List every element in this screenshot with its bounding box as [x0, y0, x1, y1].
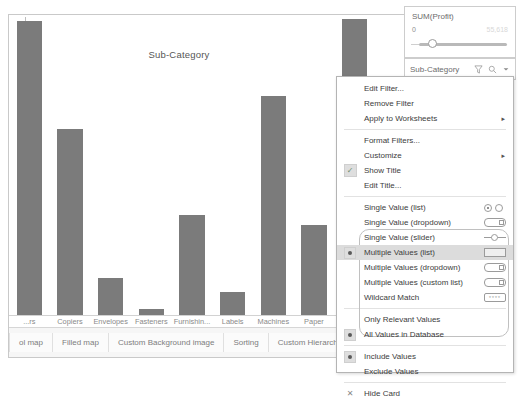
menu-item[interactable]: Only Relevant Values [337, 312, 513, 327]
radio-selected-icon [344, 247, 356, 259]
menu-separator [344, 129, 506, 130]
bar-rect[interactable] [179, 215, 204, 315]
x-tick-label[interactable]: Envelopes [90, 317, 131, 326]
menu-item-label: Include Values [364, 352, 416, 361]
menu-item[interactable]: Customize▸ [337, 148, 513, 163]
plot-bars [9, 19, 375, 315]
checkmark-icon: ✓ [344, 164, 357, 177]
menu-item-label: Multiple Values (dropdown) [364, 263, 460, 272]
menu-gutter-empty [341, 81, 359, 96]
bar[interactable] [261, 19, 286, 315]
menu-item-label: Multiple Values (custom list) [364, 278, 463, 287]
profit-min-label: 0 [412, 26, 416, 33]
x-tick-label[interactable]: Copiers [50, 317, 91, 326]
menu-item-label: Single Value (list) [364, 203, 426, 212]
menu-item[interactable]: ✓Show Title [337, 163, 513, 178]
menu-separator [344, 345, 506, 346]
menu-item[interactable]: ✕Hide Card [337, 386, 513, 400]
list-icon [484, 245, 506, 260]
dropdown-check-icon [484, 275, 506, 290]
menu-item[interactable]: Exclude Values [337, 364, 513, 379]
search-icon[interactable] [488, 65, 497, 74]
profit-max-label: 55,618 [487, 26, 508, 33]
worksheet-tab[interactable]: Custom Background image [109, 333, 225, 352]
menu-item-label: Hide Card [364, 389, 400, 398]
menu-gutter-empty [341, 111, 359, 126]
bar-rect[interactable] [301, 225, 326, 315]
submenu-arrow-icon: ▸ [501, 148, 505, 163]
menu-gutter [341, 245, 359, 260]
bar-rect[interactable] [98, 278, 123, 315]
menu-gutter-empty [341, 260, 359, 275]
profit-range-slider[interactable] [419, 43, 507, 46]
menu-item[interactable]: Edit Filter... [337, 81, 513, 96]
menu-item-label: Apply to Worksheets [364, 114, 437, 123]
worksheet-tab[interactable]: ol map [9, 333, 53, 352]
bar-rect[interactable] [17, 21, 42, 315]
menu-item[interactable]: Remove Filter [337, 96, 513, 111]
bar[interactable] [139, 19, 164, 315]
slider-icon [484, 230, 506, 245]
bar-rect[interactable] [57, 129, 82, 315]
filter-icon[interactable] [474, 65, 483, 74]
menu-item[interactable]: Single Value (list) [337, 200, 513, 215]
menu-item-label: Wildcard Match [364, 293, 419, 302]
menu-item[interactable]: Include Values [337, 349, 513, 364]
bar[interactable] [57, 19, 82, 315]
bar-rect[interactable] [261, 96, 286, 315]
x-tick-label[interactable]: Fasteners [131, 317, 172, 326]
menu-item-label: Edit Title... [364, 181, 401, 190]
menu-item-label: Only Relevant Values [364, 315, 440, 324]
bar[interactable] [301, 19, 326, 315]
x-tick-label[interactable]: Furnishin... [172, 317, 213, 326]
menu-item[interactable]: All Values in Database [337, 327, 513, 342]
menu-gutter [341, 327, 359, 342]
menu-item[interactable]: Multiple Values (custom list) [337, 275, 513, 290]
menu-item[interactable]: Wildcard Match**** [337, 290, 513, 305]
menu-item[interactable]: Format Filters... [337, 133, 513, 148]
menu-gutter-empty [341, 133, 359, 148]
menu-gutter-empty [341, 215, 359, 230]
worksheet-tab[interactable]: Sorting [224, 333, 268, 352]
menu-item[interactable]: Multiple Values (dropdown) [337, 260, 513, 275]
slider-handle[interactable] [428, 39, 437, 48]
subcategory-card-title: Sub-Category [410, 65, 469, 74]
bar[interactable] [98, 19, 123, 315]
x-tick-label[interactable]: Machines [253, 317, 294, 326]
wildcard-icon: **** [484, 290, 506, 305]
menu-gutter-empty [341, 290, 359, 305]
bar-rect[interactable] [220, 292, 245, 315]
filter-context-menu[interactable]: Edit Filter...Remove FilterApply to Work… [336, 76, 514, 373]
x-axis-line [9, 315, 375, 316]
radio-selected-icon [344, 329, 356, 341]
menu-item[interactable]: Apply to Worksheets▸ [337, 111, 513, 126]
bar[interactable] [179, 19, 204, 315]
radio-selected-icon [344, 351, 356, 363]
x-tick-label[interactable]: Labels [212, 317, 253, 326]
x-tick-label[interactable]: Paper [294, 317, 335, 326]
menu-item[interactable]: Single Value (slider) [337, 230, 513, 245]
menu-gutter-empty [341, 96, 359, 111]
menu-item-label: Format Filters... [364, 136, 420, 145]
worksheet-tab[interactable]: Filled map [53, 333, 109, 352]
bar-rect[interactable] [139, 309, 164, 315]
menu-item[interactable]: Single Value (dropdown) [337, 215, 513, 230]
dropdown-check-icon [484, 260, 506, 275]
x-tick-label[interactable]: ...rs [9, 317, 50, 326]
close-icon: ✕ [347, 389, 354, 398]
menu-gutter-empty [341, 312, 359, 327]
profit-range-labels: 0 55,618 [412, 26, 508, 33]
menu-item[interactable]: Multiple Values (list) [337, 245, 513, 260]
menu-separator [344, 308, 506, 309]
profit-filter-card[interactable]: SUM(Profit) 0 55,618 [404, 6, 516, 58]
bar[interactable] [220, 19, 245, 315]
menu-item-label: Edit Filter... [364, 84, 404, 93]
bar[interactable] [17, 19, 42, 315]
menu-separator [344, 382, 506, 383]
menu-gutter-empty [341, 230, 359, 245]
menu-gutter-empty [341, 275, 359, 290]
menu-item-label: Single Value (dropdown) [364, 218, 451, 227]
menu-item[interactable]: Edit Title... [337, 178, 513, 193]
chevron-down-icon[interactable] [502, 65, 510, 73]
menu-item-label: Customize [364, 151, 402, 160]
